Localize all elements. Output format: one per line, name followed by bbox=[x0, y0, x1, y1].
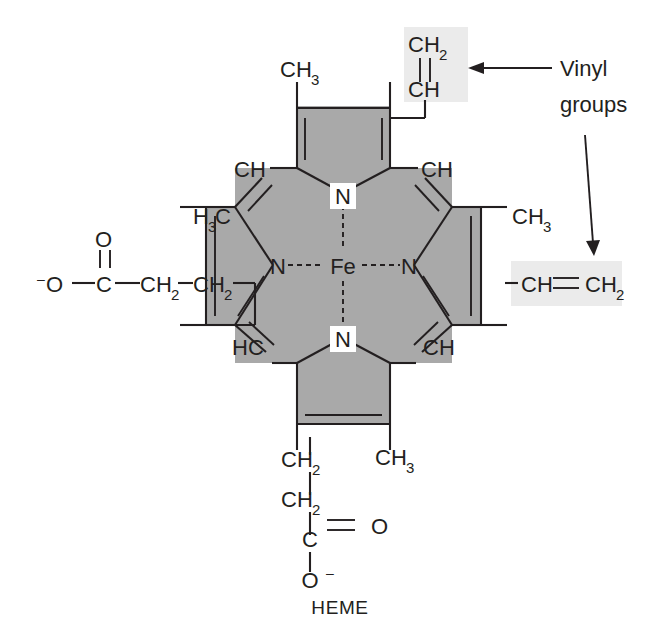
figure-caption-heme: HEME bbox=[311, 597, 368, 618]
propionate-left-carbonyl-c-label: C bbox=[96, 272, 112, 297]
iron-center-label: Fe bbox=[330, 254, 356, 279]
propionate-left-ch2-a-label: CH bbox=[140, 272, 172, 297]
nitrogen-top-label: N bbox=[335, 184, 351, 209]
vinyl-annotation-line2: groups bbox=[560, 92, 627, 117]
meso-top-left-label: CH bbox=[234, 157, 266, 182]
meso-bottom-left-label: HC bbox=[232, 335, 264, 360]
methyl-right-subscript: 3 bbox=[543, 218, 551, 235]
heme-structure-figure: N N N N Fe CH CH HC CH CH 3 H 3 C CH 3 C… bbox=[0, 0, 656, 630]
vinyl-top-arrow-head bbox=[468, 62, 484, 74]
nitrogen-bottom-label: N bbox=[335, 327, 351, 352]
methyl-top-label: CH bbox=[280, 57, 312, 82]
nitrogen-left-label: N bbox=[270, 254, 286, 279]
propionate-bottom-o-charge: – bbox=[326, 565, 334, 581]
nitrogen-right-label: N bbox=[401, 254, 417, 279]
propionate-bottom-ch2-b-label: CH bbox=[281, 487, 313, 512]
vinyl-right-ch2-subscript: 2 bbox=[616, 286, 624, 303]
propionate-bottom-ch2-a-subscript: 2 bbox=[312, 461, 320, 478]
propionate-bottom-carbonyl-c-label: C bbox=[302, 527, 318, 552]
methyl-left-h-label: H bbox=[193, 204, 209, 229]
vinyl-right-ch-label: CH bbox=[521, 272, 553, 297]
meso-bottom-right-label: CH bbox=[423, 335, 455, 360]
heme-diagram-svg: N N N N Fe CH CH HC CH CH 3 H 3 C CH 3 C… bbox=[0, 0, 656, 630]
methyl-right-label: CH bbox=[512, 204, 544, 229]
vinyl-right-arrow-line bbox=[585, 135, 593, 243]
propionate-left-ch2-b-label: CH bbox=[193, 272, 225, 297]
propionate-left-o-minus-label: O bbox=[46, 272, 63, 297]
propionate-left-o-charge: – bbox=[37, 271, 45, 287]
methyl-top-subscript: 3 bbox=[311, 71, 319, 88]
vinyl-top-ch2-label: CH bbox=[408, 32, 440, 57]
vinyl-right-ch2-label: CH bbox=[585, 272, 617, 297]
propionate-bottom-ch2-a-label: CH bbox=[281, 447, 313, 472]
vinyl-top-ch-label: CH bbox=[408, 77, 440, 102]
propionate-bottom-carbonyl-o-label: O bbox=[371, 514, 388, 539]
vinyl-right-arrow-head bbox=[586, 240, 600, 256]
propionate-left-carbonyl-o-label: O bbox=[95, 227, 112, 252]
propionate-left-ch2-a-subscript: 2 bbox=[171, 286, 179, 303]
vinyl-top-ch2-subscript: 2 bbox=[439, 46, 447, 63]
propionate-left-ch2-b-subscript: 2 bbox=[224, 286, 232, 303]
vinyl-annotation-line1: Vinyl bbox=[560, 56, 607, 81]
methyl-left-c-label: C bbox=[215, 204, 231, 229]
propionate-bottom-o-minus-label: O bbox=[301, 568, 318, 593]
meso-top-right-label: CH bbox=[421, 157, 453, 182]
propionate-bottom-ch2-b-subscript: 2 bbox=[312, 501, 320, 518]
methyl-bottom-subscript: 3 bbox=[406, 459, 414, 476]
methyl-bottom-label: CH bbox=[375, 445, 407, 470]
